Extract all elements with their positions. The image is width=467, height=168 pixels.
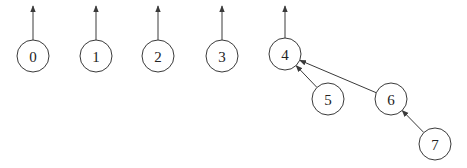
node-label: 1 (92, 49, 100, 65)
node-6: 6 (375, 83, 407, 115)
node-label: 0 (29, 49, 37, 65)
node-label: 2 (154, 49, 162, 65)
node-label: 4 (281, 47, 289, 63)
node-7: 7 (419, 128, 451, 160)
node-label: 7 (431, 137, 439, 153)
edge-5-to-4 (296, 66, 317, 88)
edge-7-to-6 (402, 110, 424, 132)
node-5: 5 (312, 83, 344, 115)
node-1: 1 (80, 40, 112, 72)
node-label: 5 (324, 92, 332, 108)
node-label: 6 (387, 92, 395, 108)
node-label: 3 (218, 49, 226, 65)
node-0: 0 (17, 40, 49, 72)
node-3: 3 (206, 40, 238, 72)
union-find-diagram: 01234567 (0, 0, 467, 168)
node-2: 2 (142, 40, 174, 72)
node-4: 4 (269, 38, 301, 70)
